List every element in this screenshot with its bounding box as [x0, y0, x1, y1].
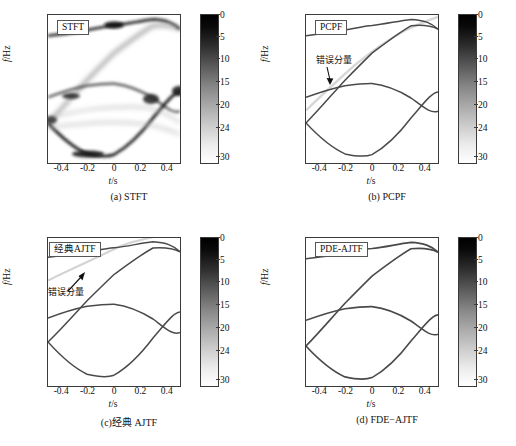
colorbar-tick-20: 20: [220, 101, 230, 110]
panel-fde-ajtf: f/Hz 500 400 300 200 100 -0.4 -0.2 0 0.2…: [258, 223, 516, 446]
colorbar-tick-10: 10: [478, 278, 488, 287]
x-axis-label: t/s: [305, 176, 437, 186]
colorbar-tick-20: 20: [478, 101, 488, 110]
panel-caption-b: (b) PCPF: [258, 191, 516, 202]
y-axis-label: f/Hz: [2, 269, 12, 285]
colorbar-tick-30: 30: [220, 153, 230, 162]
colorbar-tick-20: 20: [478, 324, 488, 333]
plot-area-fde-ajtf: [305, 237, 439, 387]
colorbar-tick-10: 10: [220, 278, 230, 287]
colorbar-tick-15: 15: [478, 78, 488, 87]
plot-area-classic-ajtf: [47, 237, 181, 387]
colorbar-tick-30: 30: [478, 376, 488, 385]
x-tick-04: 0.4: [410, 387, 440, 396]
colorbar-tick-0: 0: [478, 11, 483, 20]
panel-caption-d: (d) FDE−AJTF: [258, 414, 516, 425]
annotation-error-component: 错误分量: [316, 55, 352, 65]
y-axis-label: f/Hz: [260, 269, 270, 285]
x-tick-04: 0.4: [410, 164, 440, 173]
panel-title-box-classic-ajtf: 经典AJTF: [49, 242, 101, 257]
colorbar-tick-5: 5: [220, 256, 225, 265]
annotation-arrow-up-icon: [66, 269, 92, 293]
colorbar-tick-10: 10: [220, 55, 230, 64]
annotation-arrow-down-icon: [320, 66, 342, 88]
panel-caption-a: (a) STFT: [0, 191, 258, 202]
colorbar-tick-0: 0: [478, 234, 483, 243]
panel-title-box-stft: STFT: [57, 20, 89, 35]
x-axis-label: t/s: [47, 399, 179, 409]
colorbar-tick-0: 0: [220, 234, 225, 243]
colorbar-tick-30: 30: [220, 376, 230, 385]
colorbar-tick-20: 20: [220, 324, 230, 333]
colorbar-tick-30: 30: [478, 153, 488, 162]
colorbar-tick-0: 0: [220, 11, 225, 20]
panel-pcpf: f/Hz 500 400 300 200 100 -0.4 -0.2 0 0.2…: [258, 0, 516, 223]
panel-classic-ajtf: f/Hz 500 400 300 200 100 -0.4 -0.2 0 0.2…: [0, 223, 258, 446]
y-axis-label: f/Hz: [260, 46, 270, 62]
panel-title-box-fde-ajtf: PDE-AJTF: [315, 242, 368, 257]
colorbar-tick-15: 15: [220, 78, 230, 87]
plot-area-pcpf: [305, 14, 439, 164]
x-axis-label: t/s: [47, 176, 179, 186]
figure-root: f/Hz 500 400 300 200 100 -0.4 -0.2 0 0.2…: [0, 0, 516, 446]
colorbar-tick-24: 24: [478, 347, 488, 356]
x-tick-04: 0.4: [152, 387, 182, 396]
x-tick-04: 0.4: [152, 164, 182, 173]
panel-caption-c: (c)经典 AJTF: [0, 414, 258, 429]
colorbar-tick-10: 10: [478, 55, 488, 64]
colorbar-tick-5: 5: [478, 33, 483, 42]
colorbar-tick-24: 24: [220, 124, 230, 133]
plot-area-stft: [47, 14, 181, 164]
colorbar-tick-15: 15: [220, 301, 230, 310]
panel-title-box-pcpf: PCPF: [315, 20, 347, 35]
colorbar-tick-24: 24: [220, 347, 230, 356]
colorbar-tick-24: 24: [478, 124, 488, 133]
colorbar-tick-5: 5: [478, 256, 483, 265]
x-axis-label: t/s: [305, 399, 437, 409]
y-axis-label: f/Hz: [2, 46, 12, 62]
colorbar-tick-5: 5: [220, 33, 225, 42]
panel-stft: f/Hz 500 400 300 200 100 -0.4 -0.2 0 0.2…: [0, 0, 258, 223]
colorbar-tick-15: 15: [478, 301, 488, 310]
